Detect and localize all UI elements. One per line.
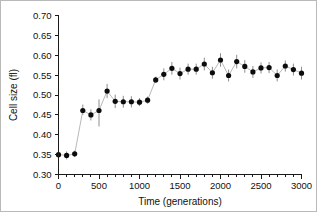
y-tick-label: 0.70 [33,10,52,21]
data-point [202,61,207,66]
data-point [186,67,191,72]
data-point [250,69,255,74]
data-point [283,63,288,68]
data-point [80,108,85,113]
axis-labels-group: 0.300.350.400.450.500.550.600.650.700500… [8,10,312,207]
data-point [194,67,199,72]
x-tick-label: 1000 [129,180,150,191]
data-point [234,59,239,64]
data-point [258,65,263,70]
figure-container: 0.300.350.400.450.500.550.600.650.700500… [0,0,317,212]
y-tick-label: 0.60 [33,50,52,61]
axes-group [55,16,302,179]
data-point [96,108,101,113]
x-tick-label: 500 [91,180,107,191]
x-tick-label: 2000 [210,180,231,191]
data-point [218,57,223,62]
chart-plot: 0.300.350.400.450.500.550.600.650.700500… [1,1,317,212]
x-tick-label: 2500 [250,180,271,191]
data-point [299,71,304,76]
data-point [177,71,182,76]
y-tick-label: 0.65 [33,30,52,41]
data-point [267,65,272,70]
data-point [113,99,118,104]
y-tick-label: 0.35 [33,149,52,160]
data-point [242,64,247,69]
data-point [226,73,231,78]
y-axis-title: Cell size (fl) [8,69,19,121]
data-point [72,151,77,156]
y-tick-label: 0.40 [33,129,52,140]
y-tick-label: 0.50 [33,89,52,100]
data-point [145,98,150,103]
data-point [169,66,174,71]
y-tick-label: 0.55 [33,70,52,81]
data-point [275,73,280,78]
x-tick-label: 3000 [291,180,312,191]
data-point [210,70,215,75]
data-point [291,67,296,72]
data-point [64,153,69,158]
y-tick-label: 0.45 [33,109,52,120]
x-axis-title: Time (generations) [138,196,222,207]
data-point [137,100,142,105]
data-point [105,88,110,93]
data-point [161,72,166,77]
data-point-group [56,57,304,158]
data-point [129,99,134,104]
x-tick-label: 1500 [169,180,190,191]
data-point [88,112,93,117]
errorbar-group [59,53,302,159]
data-point [153,77,158,82]
x-tick-label: 0 [56,180,61,191]
y-tick-label: 0.30 [33,169,52,180]
data-point [121,99,126,104]
